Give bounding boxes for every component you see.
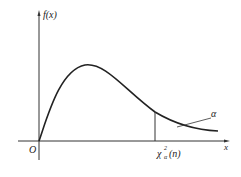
y-axis-label: f(x): [43, 9, 58, 21]
quantile-sub: α: [164, 154, 168, 160]
quantile-base: χ: [156, 148, 162, 159]
density-curve: [39, 65, 218, 141]
x-axis-label: x: [223, 142, 228, 152]
chi-square-diagram: f(x) x O α χ 2 α (n): [0, 0, 241, 177]
y-axis-arrow-icon: [38, 10, 41, 16]
alpha-label: α: [211, 108, 217, 119]
quantile-label: χ 2 α (n): [156, 145, 181, 160]
alpha-pointer: [177, 118, 211, 127]
quantile-arg: (n): [169, 148, 181, 160]
quantile-sup: 2: [164, 145, 167, 151]
origin-label: O: [29, 144, 36, 155]
